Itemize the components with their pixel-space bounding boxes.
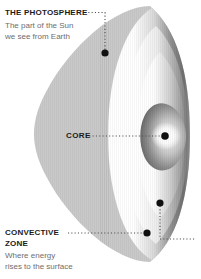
photosphere-label-body: The part of the Sun we see from Earth xyxy=(5,19,87,42)
convective-zone-label-title: CONVECTIVE ZONE xyxy=(5,228,73,249)
photosphere-label-title: THE PHOTOSPHERE xyxy=(5,8,87,19)
photosphere-marker xyxy=(101,49,108,56)
shell-texture xyxy=(100,0,201,279)
core-marker xyxy=(161,132,169,140)
convective-lower-marker xyxy=(143,229,150,236)
core-label: CORE xyxy=(66,131,91,142)
sun-interior-shells xyxy=(100,0,201,279)
core-label-title: CORE xyxy=(66,131,91,142)
convective-upper-marker xyxy=(156,199,163,206)
photosphere-label: THE PHOTOSPHERE The part of the Sun we s… xyxy=(5,8,87,42)
convective-zone-label-body: Where energy rises to the surface xyxy=(5,249,73,272)
convective-zone-label: CONVECTIVE ZONE Where energy rises to th… xyxy=(5,228,73,272)
